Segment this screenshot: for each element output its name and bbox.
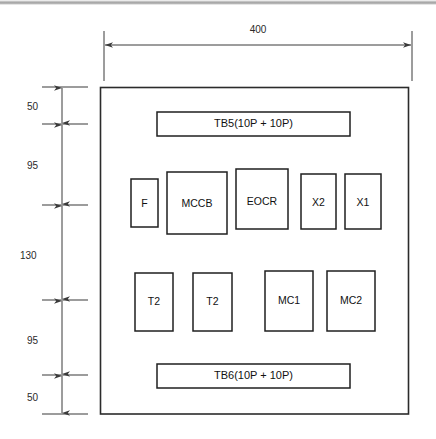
horizontal-dimension-400: 400 <box>104 24 412 81</box>
mc1-label: MC1 <box>278 294 300 306</box>
component-x1[interactable]: X1 <box>345 174 381 229</box>
component-x2[interactable]: X2 <box>301 174 336 229</box>
dim-label-tb5-to-row1: 95 <box>27 160 39 171</box>
dim-label-row1-to-row2: 130 <box>20 250 37 261</box>
component-t2-b[interactable]: T2 <box>193 273 232 331</box>
component-eocr[interactable]: EOCR <box>236 169 288 229</box>
component-mc2[interactable]: MC2 <box>327 271 375 331</box>
component-mc1[interactable]: MC1 <box>265 271 313 331</box>
tb6-label: TB6(10P + 10P) <box>214 369 293 381</box>
mc2-label: MC2 <box>340 294 362 306</box>
terminal-block-tb5[interactable]: TB5(10P + 10P) <box>157 112 350 136</box>
terminal-block-tb6[interactable]: TB6(10P + 10P) <box>157 364 350 388</box>
mccb-label: MCCB <box>182 197 213 209</box>
dim-label-top-margin: 50 <box>27 101 39 112</box>
x1-label: X1 <box>357 196 370 208</box>
dim-label-bottom-margin: 50 <box>27 392 39 403</box>
dim-label-row2-to-tb6: 95 <box>27 335 39 346</box>
drawing-canvas: 400 50 95 130 95 50 <box>0 0 436 439</box>
component-t2-a[interactable]: T2 <box>135 273 173 331</box>
eocr-label: EOCR <box>247 195 278 207</box>
t2-b-label: T2 <box>206 295 218 307</box>
dim-label-overall-width: 400 <box>250 24 267 35</box>
layout-drawing-svg: 400 50 95 130 95 50 <box>0 0 436 439</box>
t2-a-label: T2 <box>148 295 160 307</box>
component-mccb[interactable]: MCCB <box>167 172 227 234</box>
vertical-dimension-chain: 50 95 130 95 50 <box>20 87 88 414</box>
f-label: F <box>141 197 147 209</box>
x2-label: X2 <box>312 196 325 208</box>
component-f[interactable]: F <box>131 179 158 227</box>
tb5-label: TB5(10P + 10P) <box>214 117 293 129</box>
